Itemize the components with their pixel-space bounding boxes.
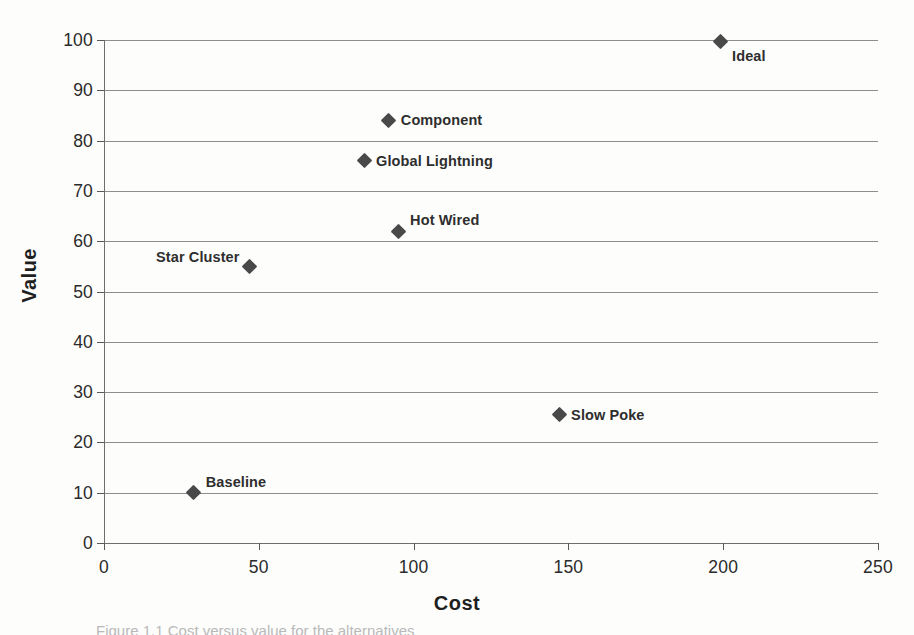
data-point-label: Global Lightning <box>376 153 493 169</box>
data-point-label: Baseline <box>206 474 266 490</box>
y-tick-0 <box>97 543 104 544</box>
x-axis-ticks: 050100150200250 <box>104 543 878 583</box>
y-tick-30 <box>97 392 104 393</box>
gridline-y-50: 50 <box>104 292 878 293</box>
y-tick-label-40: 40 <box>73 331 93 352</box>
gridline-y-20: 20 <box>104 442 878 443</box>
gridline-y-10: 10 <box>104 493 878 494</box>
y-tick-70 <box>97 191 104 192</box>
y-tick-100 <box>97 40 104 41</box>
x-tick-200 <box>723 543 724 550</box>
data-point-label: Ideal <box>732 48 766 64</box>
y-tick-label-90: 90 <box>73 80 93 101</box>
x-tick-100 <box>414 543 415 550</box>
diamond-marker-icon <box>186 485 202 501</box>
y-tick-label-80: 80 <box>73 130 93 151</box>
x-tick-label-50: 50 <box>249 557 269 578</box>
x-tick-0 <box>104 543 105 550</box>
y-tick-label-30: 30 <box>73 382 93 403</box>
y-tick-10 <box>97 493 104 494</box>
y-tick-label-70: 70 <box>73 180 93 201</box>
diamond-marker-icon <box>242 259 258 275</box>
x-tick-label-250: 250 <box>863 557 893 578</box>
data-point-label: Hot Wired <box>410 212 479 228</box>
x-tick-label-200: 200 <box>708 557 738 578</box>
chart-page: 0102030405060708090100BaselineStar Clust… <box>0 0 914 635</box>
gridline-y-30: 30 <box>104 392 878 393</box>
y-tick-50 <box>97 292 104 293</box>
y-tick-label-10: 10 <box>73 482 93 503</box>
y-tick-label-0: 0 <box>83 533 93 554</box>
y-tick-label-60: 60 <box>73 231 93 252</box>
gridline-y-80: 80 <box>104 141 878 142</box>
y-tick-20 <box>97 442 104 443</box>
gridline-y-60: 60 <box>104 241 878 242</box>
y-axis-line <box>104 40 105 543</box>
y-tick-label-50: 50 <box>73 281 93 302</box>
diamond-marker-icon <box>356 153 372 169</box>
diamond-marker-icon <box>390 223 406 239</box>
y-tick-60 <box>97 241 104 242</box>
x-tick-150 <box>568 543 569 550</box>
gridline-y-70: 70 <box>104 191 878 192</box>
gridline-y-100: 100 <box>104 40 878 41</box>
y-tick-90 <box>97 90 104 91</box>
diamond-marker-icon <box>551 407 567 423</box>
y-axis-title: Value <box>18 248 41 303</box>
gridline-y-40: 40 <box>104 342 878 343</box>
y-tick-label-20: 20 <box>73 432 93 453</box>
data-point-label: Star Cluster <box>156 249 239 265</box>
x-tick-label-100: 100 <box>399 557 429 578</box>
gridline-y-90: 90 <box>104 90 878 91</box>
figure-caption: Figure 1.1 Cost versus value for the alt… <box>96 622 656 635</box>
x-tick-250 <box>878 543 879 550</box>
y-tick-80 <box>97 141 104 142</box>
y-tick-label-100: 100 <box>63 30 93 51</box>
data-point-label: Component <box>401 112 482 128</box>
data-point-label: Slow Poke <box>571 407 644 423</box>
diamond-marker-icon <box>712 34 728 50</box>
diamond-marker-icon <box>381 113 397 129</box>
x-tick-label-150: 150 <box>553 557 583 578</box>
plot-area: 0102030405060708090100BaselineStar Clust… <box>104 40 878 543</box>
x-axis-title: Cost <box>0 592 914 615</box>
y-tick-40 <box>97 342 104 343</box>
x-tick-50 <box>259 543 260 550</box>
x-tick-label-0: 0 <box>99 557 109 578</box>
